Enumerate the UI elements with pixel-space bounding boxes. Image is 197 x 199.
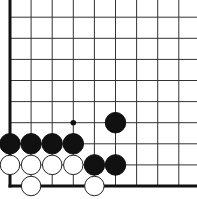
white-stone <box>42 155 62 175</box>
black-stone <box>63 134 84 155</box>
white-stone <box>0 155 20 175</box>
go-board <box>0 0 197 199</box>
white-stone <box>64 155 84 175</box>
board-markers <box>71 120 77 126</box>
white-stone <box>21 176 40 196</box>
black-stone <box>42 134 63 155</box>
point-marker-dot <box>71 120 77 126</box>
black-stone <box>105 112 126 133</box>
white-stone <box>21 155 40 175</box>
white-stone <box>85 176 105 196</box>
black-stone <box>84 155 105 176</box>
board-stones <box>0 112 126 195</box>
black-stone <box>21 134 41 155</box>
black-stone <box>105 155 126 176</box>
black-stone <box>0 134 20 155</box>
